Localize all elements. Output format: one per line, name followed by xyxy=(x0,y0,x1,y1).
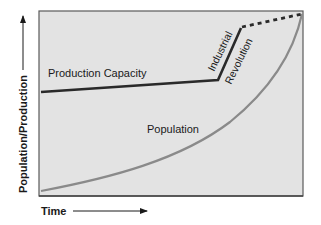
population-label: Population xyxy=(147,123,199,135)
y-axis-label: Population/Production xyxy=(17,75,29,193)
plot-area xyxy=(39,11,303,196)
x-axis-label: Time xyxy=(41,205,66,217)
production-capacity-label: Production Capacity xyxy=(48,67,147,79)
chart: Production Capacity Population Industria… xyxy=(0,0,321,225)
